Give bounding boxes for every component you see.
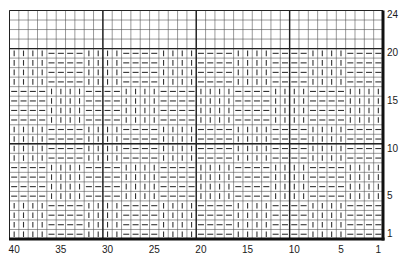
column-label: 25 [149,245,160,255]
column-label: 35 [55,245,66,255]
row-label: 20 [387,48,398,58]
row-label: 24 [387,10,398,20]
row-label: 5 [387,191,393,201]
column-label: 40 [9,245,20,255]
row-label: 15 [387,96,398,106]
row-label: 1 [387,229,393,239]
column-label: 5 [338,245,344,255]
column-label: 15 [242,245,253,255]
knitting-chart: 4035302520151051 2420151051 [0,0,405,262]
column-label: 10 [289,245,300,255]
stitch-grid [0,0,405,262]
column-label: 30 [102,245,113,255]
row-label: 10 [387,144,398,154]
column-label: 1 [376,245,382,255]
column-label: 20 [195,245,206,255]
